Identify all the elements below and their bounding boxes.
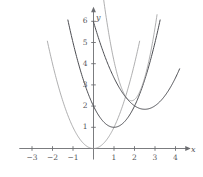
y-axis-arrow [91,7,96,13]
x-axis-arrow [185,146,191,151]
y-axis-label: y [96,13,101,22]
curve-parabola-4 [94,22,180,109]
x-tick-label: 2 [125,153,145,162]
parabolas-chart: x y −3−2−11234123456 [0,0,203,177]
y-tick-label: 1 [72,122,88,131]
plot-canvas [0,0,203,177]
y-tick-label: 5 [72,38,88,47]
y-tick-label: 2 [72,101,88,110]
x-tick-label: −2 [43,153,63,162]
x-tick-label: 3 [145,153,165,162]
x-tick-label: −3 [22,153,42,162]
y-tick-label: 6 [72,16,88,25]
curve-parabola-2 [68,20,160,127]
x-axis-label: x [191,145,196,154]
x-tick-label: 1 [104,153,124,162]
x-tick-label: −1 [63,153,83,162]
y-tick-label: 3 [72,80,88,89]
y-tick-label: 4 [72,59,88,68]
x-tick-label: 4 [166,153,186,162]
